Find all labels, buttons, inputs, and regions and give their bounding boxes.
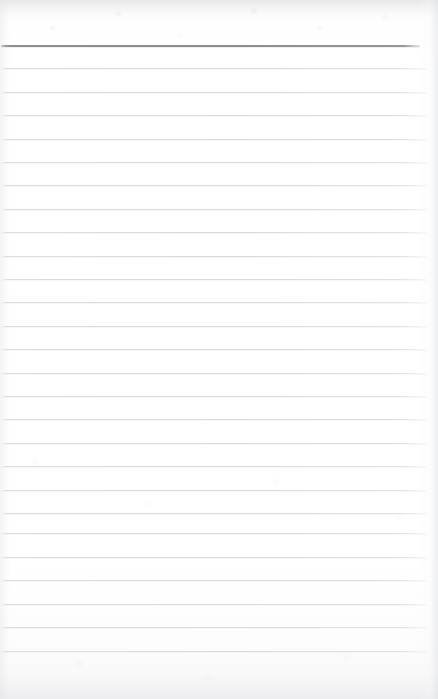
paper-vignette [0,0,438,699]
notepad-page [0,0,438,699]
